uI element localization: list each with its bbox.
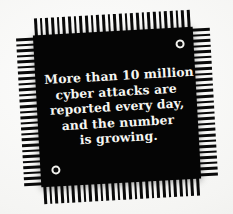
alignment-dot-bottom-left <box>51 165 60 174</box>
chip-illustration: More than 10 millioncyber attacks arerep… <box>0 0 233 214</box>
microchip: More than 10 millioncyber attacks arerep… <box>32 27 200 188</box>
chip-caption-text: More than 10 millioncyber attacks arerep… <box>34 64 198 151</box>
chip-body: More than 10 millioncyber attacks arerep… <box>32 27 200 188</box>
alignment-dot-top-right <box>175 39 184 48</box>
